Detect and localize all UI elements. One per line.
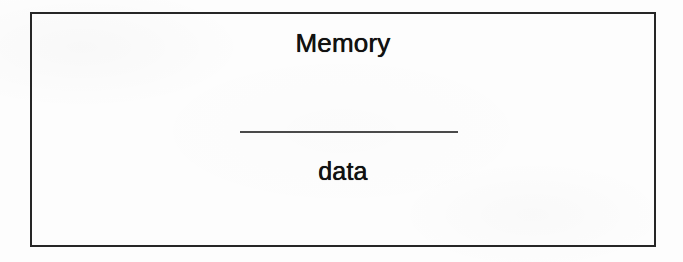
connection-line (240, 131, 458, 133)
outer-frame: Memory data Memory data (30, 12, 656, 247)
memory-block-right-title: Memory (32, 28, 654, 58)
memory-block-right: Memory data (32, 212, 246, 262)
scanned-figure-canvas: Memory data Memory data (0, 0, 683, 262)
memory-block-right-data-label: data (32, 157, 654, 186)
